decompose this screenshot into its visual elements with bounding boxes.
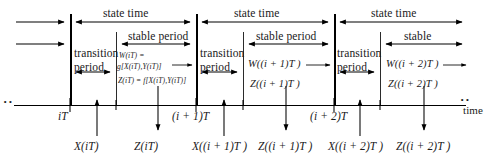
panel-1-transition-line2: period — [74, 61, 104, 73]
panel-3-stable-label: stable — [404, 30, 431, 42]
output-label-z-i1t: Z((i + 1)T ) — [258, 140, 312, 152]
panel-3-w-line1: W((i + 2)T ) — [386, 58, 439, 70]
panel-1-transition-line1: transition — [74, 47, 118, 59]
panel-2-z-line: Z((i + 1)T ) — [250, 78, 300, 90]
timing-diagram: ·· ·· time — [0, 0, 498, 166]
tick-label-it: iT — [58, 110, 68, 122]
panel-2-transition-line2: period — [200, 61, 230, 73]
output-label-z-it: Z(iT) — [134, 140, 158, 152]
panel-2-stable-label: stable period — [256, 30, 316, 42]
panel-2-state-time: state time — [234, 7, 279, 19]
output-label-z-i2t: Z((i + 2)T ) — [396, 140, 450, 152]
panel-3-transition-line2: period — [337, 61, 367, 73]
tick-label-i2t: (i + 2)T — [310, 110, 347, 122]
panel-3-z-line: Z((i + 2)T ) — [388, 78, 438, 90]
panel-1-z-line: Z(iT) = f[X(iT),Y(iT)] — [118, 76, 186, 85]
panel-3-transition-line1: transition — [337, 47, 381, 59]
panel-1-state-time: state time — [103, 7, 148, 19]
panel-1-w-line1: W(iT) = — [119, 51, 144, 60]
tick-label-i1t: (i + 1)T — [172, 110, 209, 122]
panel-1-w-line2: g[X(iT),Y(iT)] — [117, 62, 162, 71]
panel-2-w-line1: W((i + 1)T ) — [248, 58, 301, 70]
panel-2-transition-line1: transition — [200, 47, 244, 59]
input-label-x-it: X(iT) — [74, 140, 99, 152]
input-label-x-i2t: X((i + 2)T ) — [328, 140, 383, 152]
panel-3-state-time: state time — [371, 7, 416, 19]
input-label-x-i1t: X((i + 1)T ) — [192, 140, 247, 152]
panel-1-stable-label: stable period — [128, 30, 188, 42]
